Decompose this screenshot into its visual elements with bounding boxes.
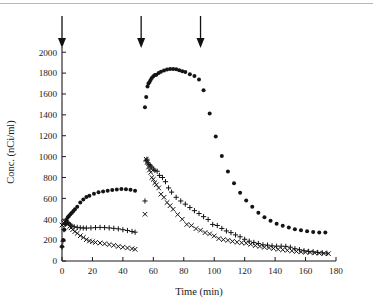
data-point xyxy=(248,242,253,247)
data-point xyxy=(201,214,206,219)
data-point xyxy=(219,226,224,231)
y-tick-label: 1400 xyxy=(39,110,58,120)
data-point xyxy=(119,187,123,191)
data-point xyxy=(78,201,82,205)
data-point xyxy=(162,195,167,200)
data-point xyxy=(198,228,203,233)
y-tick-label: 800 xyxy=(43,173,57,183)
x-tick-label: 20 xyxy=(88,266,98,276)
data-point xyxy=(281,224,285,228)
y-tick-label: 200 xyxy=(43,235,57,245)
data-point xyxy=(192,74,196,78)
data-series-layer xyxy=(59,67,330,256)
injection-arrow-1 xyxy=(58,16,66,48)
injection-arrow-2 xyxy=(137,16,145,48)
data-point xyxy=(311,230,315,234)
data-point xyxy=(224,228,229,233)
data-point xyxy=(116,226,121,231)
data-point xyxy=(163,179,168,184)
data-point xyxy=(305,229,309,233)
plus-series xyxy=(59,157,329,256)
data-point xyxy=(116,244,121,249)
data-point xyxy=(206,217,211,222)
data-point xyxy=(210,222,215,227)
data-point xyxy=(129,229,134,234)
data-point xyxy=(111,226,116,231)
data-point xyxy=(196,211,201,216)
data-point xyxy=(238,191,242,195)
y-tick-label: 1200 xyxy=(39,131,58,141)
data-point xyxy=(192,208,197,213)
data-point xyxy=(93,240,98,245)
y-tick-label: 1600 xyxy=(39,89,58,99)
cross-series xyxy=(60,157,331,256)
data-point xyxy=(197,78,201,82)
data-point xyxy=(166,185,171,190)
data-point xyxy=(208,112,212,116)
data-point xyxy=(171,207,176,212)
data-point xyxy=(125,228,130,233)
x-tick-label: 160 xyxy=(299,266,313,276)
data-point xyxy=(174,195,179,200)
concentration-time-scatter-chart: 0200400600800100012001400160018002000020… xyxy=(0,0,373,306)
data-point xyxy=(294,249,299,254)
data-point xyxy=(269,219,273,223)
data-point xyxy=(212,234,217,239)
data-point xyxy=(232,181,236,185)
data-point xyxy=(323,231,327,235)
data-point xyxy=(75,205,79,209)
y-tick-label: 400 xyxy=(43,215,57,225)
data-point xyxy=(143,105,147,109)
data-point xyxy=(189,223,194,228)
data-point xyxy=(215,223,220,228)
data-point xyxy=(84,226,89,231)
data-point xyxy=(98,241,103,246)
data-point xyxy=(287,225,291,229)
data-point xyxy=(115,187,119,191)
x-axis-title: Time (min) xyxy=(175,286,223,298)
data-point xyxy=(228,230,233,235)
data-point xyxy=(276,247,281,252)
y-tick-label: 600 xyxy=(43,194,57,204)
data-point xyxy=(169,190,174,195)
data-point xyxy=(221,237,226,242)
data-point xyxy=(239,240,244,245)
data-point xyxy=(106,189,110,193)
data-point xyxy=(183,70,187,74)
data-point xyxy=(178,198,183,203)
data-point xyxy=(102,241,107,246)
data-point xyxy=(187,205,192,210)
y-tick-label: 0 xyxy=(52,256,57,266)
data-point xyxy=(230,239,235,244)
data-point xyxy=(256,211,260,215)
data-point xyxy=(102,225,107,230)
filled-circle-series xyxy=(60,67,327,248)
data-point xyxy=(271,246,276,251)
data-point xyxy=(194,226,199,231)
y-tick-label: 2000 xyxy=(39,48,58,58)
data-point xyxy=(262,215,266,219)
data-point xyxy=(133,189,137,193)
data-point xyxy=(110,188,114,192)
x-tick-label: 180 xyxy=(329,266,343,276)
injection-arrow-layer xyxy=(58,16,205,48)
data-point xyxy=(203,230,208,235)
x-tick-label: 60 xyxy=(149,266,159,276)
y-axis-title: Conc. (nCi/ml) xyxy=(5,120,17,184)
data-point xyxy=(238,234,243,239)
data-point xyxy=(107,242,112,247)
data-point xyxy=(202,88,206,92)
data-point xyxy=(132,230,137,235)
data-point xyxy=(244,241,249,246)
x-tick-label: 40 xyxy=(118,266,128,276)
data-point xyxy=(285,248,290,253)
data-point xyxy=(253,243,258,248)
data-point xyxy=(133,247,138,252)
data-point xyxy=(207,232,212,237)
data-point xyxy=(258,244,263,249)
data-point xyxy=(180,217,185,222)
data-point xyxy=(250,205,254,209)
data-point xyxy=(299,228,303,232)
data-point xyxy=(293,227,297,231)
x-tick-label: 80 xyxy=(179,266,189,276)
